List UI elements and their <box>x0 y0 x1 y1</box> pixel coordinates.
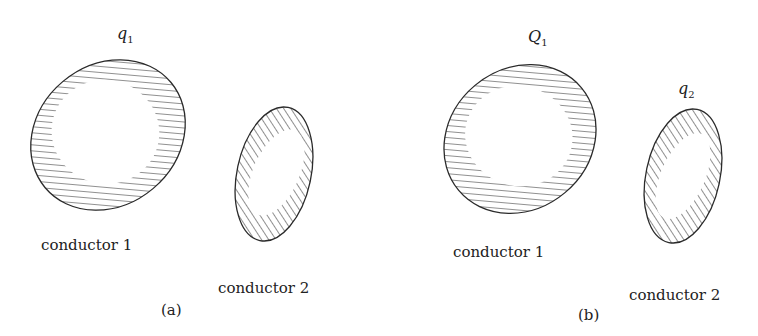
panel-a-charge-q1: q1 <box>117 24 134 45</box>
panel-b-conductor-2-shape <box>633 102 734 250</box>
panel-b-charge-q2: q2 <box>678 79 695 100</box>
panel-b-caption: (b) <box>578 306 599 324</box>
panel-b-conductor-1-shape <box>414 34 627 244</box>
panel-a-conductor-2-label: conductor 2 <box>218 279 309 297</box>
panel-a-conductor-1-shape <box>0 29 216 242</box>
panel-b-conductor-2-label: conductor 2 <box>629 286 720 304</box>
panel-b-charge-Q1: Q1 <box>528 27 548 48</box>
panel-a-caption: (a) <box>161 301 182 319</box>
panel-b-conductor-1-label: conductor 1 <box>453 243 544 261</box>
panel-a-conductor-2-shape <box>224 100 325 248</box>
panel-a-conductor-1-label: conductor 1 <box>41 236 132 254</box>
